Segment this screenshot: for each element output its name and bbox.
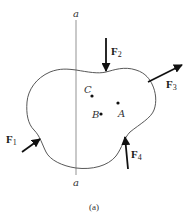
- point-c-label: C: [84, 84, 92, 95]
- point-b-label: B: [91, 109, 99, 120]
- force-f3-label: F3: [166, 78, 177, 92]
- force-f4-label: F4: [131, 148, 142, 162]
- force-f4-arrow: [125, 137, 128, 169]
- force-f1-arrow: [22, 139, 40, 152]
- point-a-dot: [116, 101, 119, 104]
- axis-top-label: a: [73, 8, 79, 19]
- axis-bottom-label: a: [73, 177, 79, 188]
- rigid-body-force-diagram: a a C A B F2 F3 F1 F4 (a): [0, 0, 192, 224]
- figure-caption: (a): [89, 202, 99, 212]
- point-b-dot: [99, 112, 102, 115]
- force-f3-arrow: [148, 65, 182, 82]
- force-f2-label: F2: [111, 45, 122, 59]
- point-a-label: A: [117, 108, 125, 119]
- force-f1-label: F1: [6, 133, 17, 147]
